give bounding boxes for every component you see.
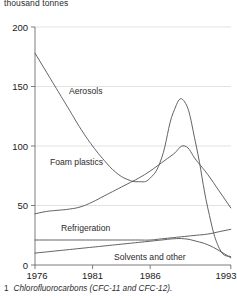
footnote: 1Chlorofluorocarbons (CFC-11 and CFC-12)… — [4, 284, 172, 293]
x-axis-tick-marks — [35, 265, 231, 269]
ytick-label-150: 150 — [12, 81, 28, 92]
xtick-label-1986: 1986 — [140, 270, 161, 281]
footnote-marker: 1 — [4, 284, 9, 293]
series-label-aerosols: Aerosols — [69, 86, 102, 96]
series-label-refrigeration: Refrigeration — [61, 223, 110, 233]
xtick-label-1976: 1976 — [26, 270, 47, 281]
y-axis-tick-marks — [31, 27, 35, 265]
chart-plot-area: 200 150 100 50 0 1976 1981 1986 1993 Aer… — [0, 0, 237, 297]
series-label-foam-plastics: Foam plastics — [50, 157, 103, 167]
gridlines — [35, 27, 231, 206]
footnote-text: Chlorofluorocarbons (CFC-11 and CFC-12). — [14, 284, 173, 293]
series-label-solvents-and-other: Solvents and other — [114, 252, 186, 262]
x-axis-tick-labels: 1976 1981 1986 1993 — [26, 270, 236, 281]
xtick-label-1993: 1993 — [215, 270, 236, 281]
ytick-label-50: 50 — [17, 200, 28, 211]
xtick-label-1981: 1981 — [82, 270, 103, 281]
y-axis-tick-labels: 200 150 100 50 0 — [12, 22, 28, 271]
ytick-label-200: 200 — [12, 22, 28, 33]
cfc-consumption-chart: thousand tonnes 200 150 100 50 0 — [0, 0, 237, 297]
ytick-label-0: 0 — [23, 260, 28, 271]
ytick-label-100: 100 — [12, 141, 28, 152]
